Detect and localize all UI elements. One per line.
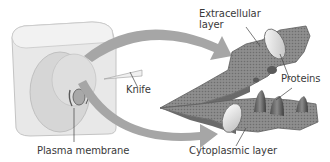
proteins-leader-2: [276, 88, 292, 100]
knife-label: Knife: [126, 84, 151, 95]
freeze-fracture-diagram: Extracellular layer Knife Proteins Plasm…: [0, 0, 330, 162]
plasma-membrane-label: Plasma membrane: [37, 145, 129, 156]
extracellular-layer-label-line1: Extracellular: [199, 8, 261, 19]
proteins-label: Proteins: [281, 73, 320, 84]
frozen-cell-block: [12, 22, 116, 136]
extracellular-layer-label: Extracellular layer: [199, 8, 261, 30]
cytoplasmic-layer-label: Cytoplasmic layer: [189, 145, 277, 156]
extracellular-layer-label-line2: layer: [199, 19, 261, 30]
